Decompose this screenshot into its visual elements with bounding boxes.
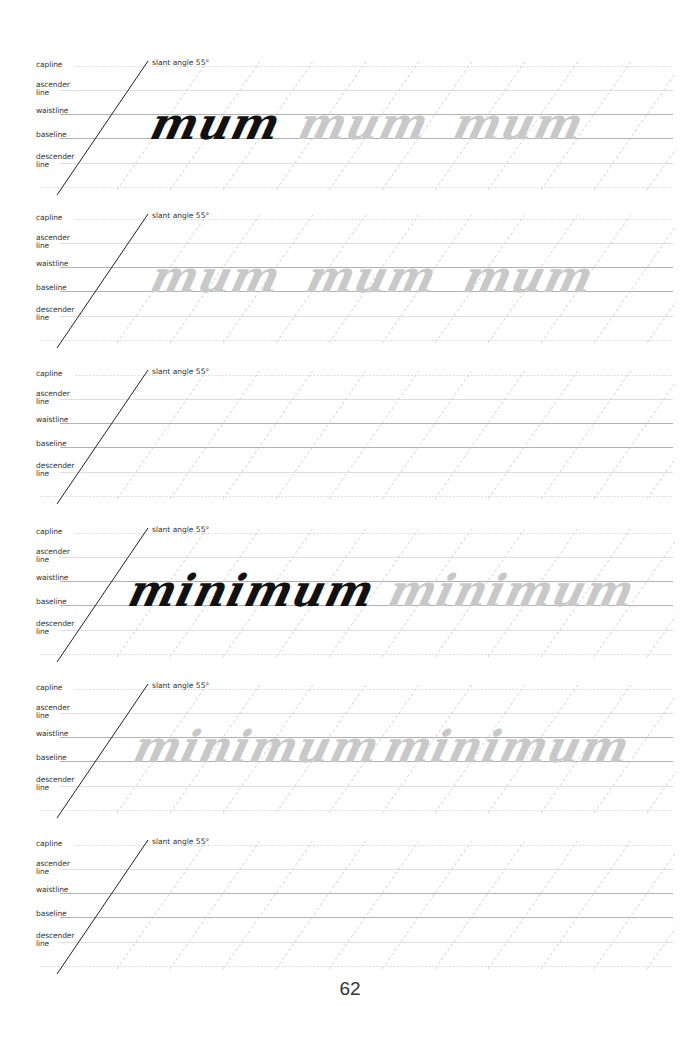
guideline-grid (0, 375, 700, 525)
descender-line-label-part: line (36, 628, 74, 636)
slant-guide-line (541, 841, 631, 969)
slant-guide-line (117, 841, 207, 969)
ascender-line-label: ascenderline (36, 234, 70, 250)
baseline-label: baseline (36, 598, 67, 606)
slant-angle-reference-line (57, 840, 148, 974)
ascender-line-label-part: line (36, 89, 70, 97)
slant-guide-line (223, 371, 313, 499)
slant-guide-line (541, 371, 631, 499)
practice-block-5: capline ascenderline waistline baseline … (0, 689, 700, 839)
slant-guide-line (382, 371, 472, 499)
trace-word: mum (450, 102, 589, 146)
waistline-label: waistline (36, 260, 68, 268)
waistline-label: waistline (36, 574, 68, 582)
calligraphy-worksheet-page: capline ascenderline waistline baseline … (0, 0, 700, 1037)
guideline-grid (0, 845, 700, 995)
ascender-line-label-part: line (36, 242, 70, 250)
slant-guide-line (223, 841, 313, 969)
slant-guide-line (170, 841, 260, 969)
trace-word: minimum (380, 725, 635, 769)
ascender-line-label: ascenderline (36, 860, 70, 876)
ascender-line-label-part: line (36, 712, 70, 720)
ascender-line-label: ascenderline (36, 390, 70, 406)
baseline-label: baseline (36, 910, 67, 918)
practice-block-4: capline ascenderline waistline baseline … (0, 533, 700, 683)
descender-line-label-part: line (36, 940, 74, 948)
slant-guide-line (594, 371, 684, 499)
slant-guide-line (488, 841, 578, 969)
slant-guide-line (647, 841, 700, 969)
slant-angle-reference-line (57, 370, 148, 504)
descender-line-label: descenderline (36, 620, 74, 636)
waistline-label: waistline (36, 730, 68, 738)
baseline-label: baseline (36, 440, 67, 448)
slant-angle-label: slant angle 55° (152, 837, 209, 846)
slant-angle-label: slant angle 55° (152, 211, 209, 220)
trace-word: minimum (385, 569, 640, 613)
baseline-label: baseline (36, 284, 67, 292)
slant-angle-label: slant angle 55° (152, 367, 209, 376)
capline-label: capline (36, 840, 62, 848)
descender-line-label: descenderline (36, 306, 74, 322)
capline-label: capline (36, 528, 62, 536)
capline-label: capline (36, 214, 62, 222)
ascender-line-label-part: line (36, 398, 70, 406)
slant-guide-line (647, 215, 700, 343)
slant-guide-line (647, 529, 700, 657)
slant-guide-line (647, 685, 700, 813)
slant-angle-reference-line (57, 61, 148, 195)
slant-angle-label: slant angle 55° (152, 58, 209, 67)
descender-line-label-part: line (36, 314, 74, 322)
capline-label: capline (36, 370, 62, 378)
slant-guide-line (329, 841, 419, 969)
descender-line-label: descenderline (36, 462, 74, 478)
slant-guide-line (382, 841, 472, 969)
trace-word: mum (460, 255, 599, 299)
slant-guide-line (329, 371, 419, 499)
ascender-line-label: ascenderline (36, 704, 70, 720)
slant-guide-line (594, 215, 684, 343)
capline-label: capline (36, 61, 62, 69)
descender-line-label: descenderline (36, 776, 74, 792)
slant-guide-line (276, 371, 366, 499)
capline-label: capline (36, 684, 62, 692)
baseline-label: baseline (36, 754, 67, 762)
slant-guide-line (435, 371, 525, 499)
slant-guide-line (117, 371, 207, 499)
slant-angle-label: slant angle 55° (152, 525, 209, 534)
baseline-label: baseline (36, 131, 67, 139)
descender-line-label-part: line (36, 784, 74, 792)
waistline-label: waistline (36, 107, 68, 115)
slant-guide-line (647, 62, 700, 190)
page-number: 62 (0, 978, 700, 1000)
descender-line-label: descenderline (36, 153, 74, 169)
descender-line-label-part: line (36, 470, 74, 478)
slant-guide-line (170, 371, 260, 499)
slant-angle-label: slant angle 55° (152, 681, 209, 690)
ascender-line-label-part: line (36, 868, 70, 876)
slant-angle-reference-line (57, 214, 148, 348)
slant-guide-line (594, 62, 684, 190)
trace-word: minimum (130, 725, 385, 769)
trace-word: mum (147, 255, 286, 299)
descender-line-label-part: line (36, 161, 74, 169)
trace-word: mum (295, 102, 434, 146)
practice-block-2: capline ascenderline waistline baseline … (0, 219, 700, 369)
waistline-label: waistline (36, 886, 68, 894)
slant-guide-line (276, 841, 366, 969)
example-word: minimum (125, 569, 380, 613)
example-word: mum (147, 102, 286, 146)
waistline-label: waistline (36, 416, 68, 424)
ascender-line-label: ascenderline (36, 81, 70, 97)
practice-block-3: capline ascenderline waistline baseline … (0, 375, 700, 525)
slant-guide-line (488, 371, 578, 499)
ascender-line-label: ascenderline (36, 548, 70, 564)
slant-guide-line (594, 841, 684, 969)
slant-guide-line (647, 371, 700, 499)
practice-block-1: capline ascenderline waistline baseline … (0, 66, 700, 216)
practice-block-6: capline ascenderline waistline baseline … (0, 845, 700, 995)
descender-line-label: descenderline (36, 932, 74, 948)
trace-word: mum (303, 255, 442, 299)
slant-guide-line (435, 841, 525, 969)
ascender-line-label-part: line (36, 556, 70, 564)
